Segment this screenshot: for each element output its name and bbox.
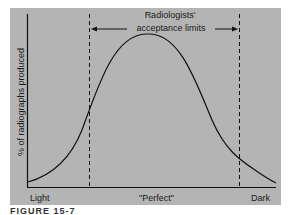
annotation-line2: acceptance limits xyxy=(127,23,215,33)
arrowhead-right-icon xyxy=(232,27,238,32)
annotation-line1: Radiologists' xyxy=(140,10,200,20)
x-label-dark: Dark xyxy=(251,193,270,203)
x-label-light: Light xyxy=(30,193,50,203)
y-axis-label: % of radiographs produced xyxy=(16,32,28,172)
figure-caption: FIGURE 15-7 xyxy=(10,206,76,215)
x-label-perfect: "Perfect" xyxy=(139,193,174,203)
distribution-curve xyxy=(28,34,276,183)
arrowhead-left-icon xyxy=(91,27,97,32)
